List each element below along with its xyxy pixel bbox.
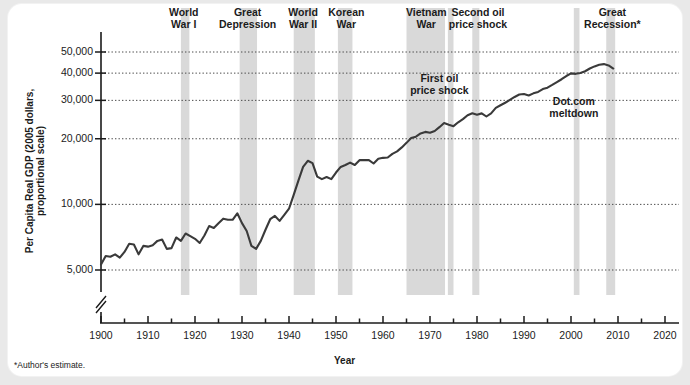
shaded-band — [574, 8, 580, 295]
shaded-band — [472, 8, 479, 295]
annotation-line2: meltdown — [549, 107, 598, 119]
y-tick-label-40000: 40,000 — [0, 66, 93, 78]
annotation-first-oil-price-shock: First oil price shock — [410, 73, 468, 96]
annotation-line1: Korean — [328, 6, 364, 18]
shaded-band — [240, 8, 257, 295]
x-tick-label-2010: 2010 — [606, 329, 629, 341]
x-tick-label-2000: 2000 — [559, 329, 582, 341]
annotation-world-war-ii: World War II — [288, 7, 318, 30]
annotation-korean-war: Korean War — [328, 7, 364, 30]
annotation-line1: Dot.com — [553, 95, 595, 107]
annotation-vietnam-war: Vietnam War — [406, 7, 447, 30]
annotation-line2: War I — [171, 18, 196, 30]
y-tick-label-20000: 20,000 — [0, 132, 93, 144]
annotation-line2: Recession* — [584, 18, 641, 30]
axis-break-icon — [96, 296, 106, 313]
x-tick-label-1980: 1980 — [465, 329, 488, 341]
y-tick-label-5000: 5,000 — [0, 263, 93, 275]
x-tick-label-1950: 1950 — [324, 329, 347, 341]
annotation-line2: Depression — [219, 18, 276, 30]
x-tick-label-1990: 1990 — [512, 329, 535, 341]
shaded-band — [338, 8, 353, 295]
annotation-great-depression: Great Depression — [219, 7, 276, 30]
y-tick-label-30000: 30,000 — [0, 93, 93, 105]
y-tick-label-10000: 10,000 — [0, 197, 93, 209]
gdp-line-chart: Per Capita Real GDP (2005 dollars, propo… — [0, 0, 690, 385]
x-tick-label-2020: 2020 — [653, 329, 676, 341]
annotation-line2: price shock — [449, 18, 507, 30]
y-tick-label-50000: 50,000 — [0, 45, 93, 57]
chart-page: Per Capita Real GDP (2005 dollars, propo… — [0, 0, 690, 385]
shaded-band — [407, 8, 446, 295]
shaded-band — [181, 8, 189, 295]
annotation-line2: War — [417, 18, 436, 30]
annotation-second-oil-price-shock: Second oil price shock — [449, 7, 507, 30]
footnote: *Author's estimate. — [14, 360, 85, 370]
annotation-line1: First oil — [420, 72, 458, 84]
x-tick-label-1960: 1960 — [371, 329, 394, 341]
annotation-line1: World — [169, 6, 199, 18]
x-tick-label-1970: 1970 — [418, 329, 441, 341]
annotation-line2: price shock — [410, 84, 468, 96]
annotation-line2: War II — [289, 18, 317, 30]
annotation-dotcom-meltdown: Dot.com meltdown — [549, 96, 598, 119]
x-axis-title: Year — [334, 355, 355, 366]
annotation-line2: War — [337, 18, 356, 30]
x-tick-label-1930: 1930 — [230, 329, 253, 341]
annotation-line1: Vietnam — [406, 6, 447, 18]
x-tick-label-1920: 1920 — [183, 329, 206, 341]
plot-area — [0, 0, 690, 385]
x-tick-label-1910: 1910 — [136, 329, 159, 341]
annotation-world-war-i: World War I — [169, 7, 199, 30]
shaded-band — [606, 8, 615, 295]
annotation-line1: Great — [599, 6, 626, 18]
x-tick-label-1940: 1940 — [277, 329, 300, 341]
data-line-per-capita-real-gdp — [101, 64, 613, 264]
annotation-line1: World — [288, 6, 318, 18]
shaded-band — [294, 8, 315, 295]
x-tick-label-1900: 1900 — [89, 329, 112, 341]
shaded-band — [448, 8, 454, 295]
annotation-line1: Great — [234, 6, 261, 18]
annotation-line1: Second oil — [451, 6, 504, 18]
annotation-great-recession: Great Recession* — [584, 7, 641, 30]
